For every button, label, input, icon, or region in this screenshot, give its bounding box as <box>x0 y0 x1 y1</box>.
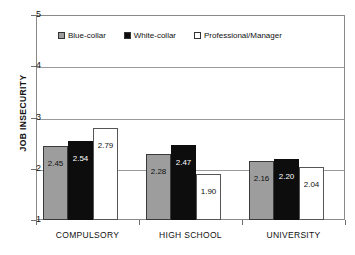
bar-value-label: 1.90 <box>196 187 222 196</box>
x-tick-mark <box>345 220 346 225</box>
bar-value-label: 2.47 <box>171 158 197 167</box>
bar-value-label: 2.16 <box>249 174 275 183</box>
x-tick-mark <box>139 220 140 225</box>
category-label: COMPULSORY <box>36 230 139 240</box>
bar <box>249 161 274 220</box>
bar-value-label: 2.04 <box>299 180 325 189</box>
bars-layer: 2.452.542.792.282.471.902.162.202.04 <box>36 15 345 220</box>
bar-value-label: 2.54 <box>68 154 94 163</box>
bar <box>299 167 324 220</box>
bar <box>171 145 196 220</box>
bar <box>274 159 299 221</box>
bar <box>43 146 68 220</box>
x-tick-mark <box>242 220 243 225</box>
category-label: UNIVERSITY <box>242 230 345 240</box>
category-label: HIGH SCHOOL <box>139 230 242 240</box>
bar <box>68 141 93 220</box>
job-insecurity-bar-chart: JOB INSECURITY 12345 Blue-collar White-c… <box>0 0 355 255</box>
bar-value-label: 2.45 <box>43 159 69 168</box>
x-tick-mark <box>36 220 37 225</box>
bar-value-label: 2.79 <box>93 141 119 150</box>
bar-value-label: 2.20 <box>274 172 300 181</box>
bar <box>196 174 221 220</box>
bar <box>146 154 171 220</box>
bar-value-label: 2.28 <box>146 167 172 176</box>
